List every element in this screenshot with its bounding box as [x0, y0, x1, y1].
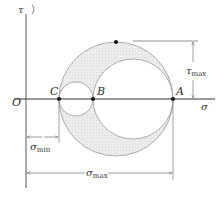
- tau-axis-arrow-icon: [32, 5, 34, 14]
- label-b: B: [96, 85, 105, 98]
- mohr-circle-diagram: τ O σ C B A τmax σmin σmax: [0, 0, 221, 197]
- point-top: [114, 40, 118, 44]
- origin-label: O: [12, 96, 21, 109]
- sigma-max-label: σmax: [86, 167, 108, 180]
- sigma-min-label: σmin: [30, 141, 51, 154]
- sigma-axis-label: σ: [201, 101, 209, 112]
- tau-max-label: τmax: [186, 65, 206, 78]
- point-b: [91, 97, 95, 101]
- label-a: A: [175, 85, 184, 98]
- tau-axis-label: τ: [18, 4, 24, 15]
- label-c: C: [50, 85, 59, 98]
